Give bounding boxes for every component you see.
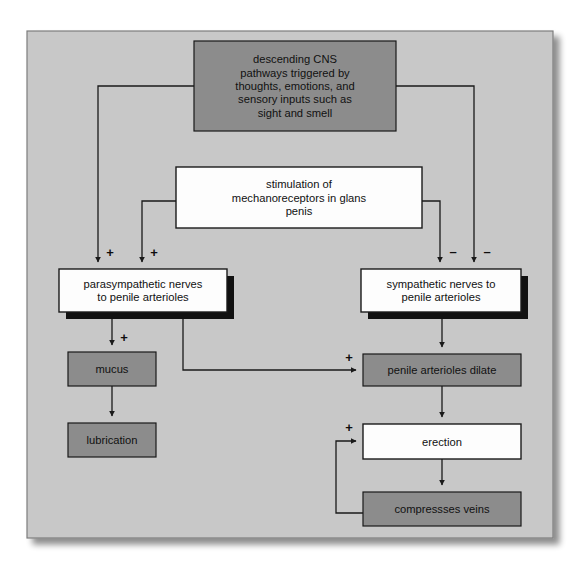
- box-label: mucus: [96, 363, 129, 375]
- penile-arterioles-dilate-box: penile arterioles dilate: [363, 354, 521, 386]
- plus-sign-feedback-to-erection: +: [345, 420, 353, 435]
- erection-box: erection: [363, 424, 521, 459]
- plus-sign-parasympathetic-to-mucus: +: [120, 330, 128, 345]
- box-label: parasympathetic nervesto penile arteriol…: [84, 278, 203, 303]
- plus-sign-mechanoreceptors-to-parasympathetic: +: [150, 245, 158, 260]
- box-label: penile arterioles dilate: [388, 364, 497, 376]
- plus-sign-parasympathetic-to-dilate: +: [345, 350, 353, 365]
- box-label: compressses veins: [394, 503, 490, 515]
- box-label: sympathetic nerves topenile arterioles: [387, 278, 496, 303]
- box-label: lubrication: [87, 434, 138, 446]
- minus-sign-cns-to-sympathetic: –: [483, 244, 490, 259]
- mucus-box: mucus: [68, 352, 156, 386]
- parasympathetic-nerves-box: parasympathetic nervesto penile arteriol…: [59, 269, 234, 319]
- box-label: erection: [422, 436, 462, 448]
- lubrication-box: lubrication: [68, 423, 156, 457]
- plus-sign-cns-to-parasympathetic: +: [106, 245, 114, 260]
- compressses-veins-box: compressses veins: [363, 492, 521, 526]
- stimulation-mechanoreceptors-box: stimulation ofmechanoreceptors in glansp…: [176, 167, 422, 228]
- descending-cns-pathways-box: descending CNSpathways triggered bythoug…: [194, 41, 396, 131]
- sympathetic-nerves-box: sympathetic nerves topenile arterioles: [361, 269, 528, 319]
- figure-canvas: descending CNSpathways triggered bythoug…: [0, 0, 585, 583]
- flowchart-diagram: descending CNSpathways triggered bythoug…: [0, 0, 585, 583]
- minus-sign-mechanoreceptors-to-sympathetic: –: [449, 244, 456, 259]
